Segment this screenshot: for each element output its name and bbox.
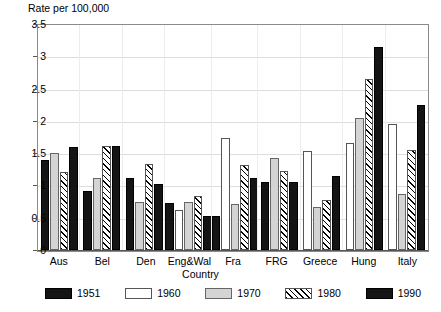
legend-item[interactable]: 1970 xyxy=(205,287,260,299)
y-axis-tick-label: 2 xyxy=(0,116,46,126)
legend-swatch xyxy=(285,288,312,299)
x-axis-tick-label: Aus xyxy=(37,255,81,267)
y-axis-tick-mark xyxy=(33,24,37,25)
legend-label: 1951 xyxy=(77,287,100,299)
y-axis-tick-mark xyxy=(33,218,37,219)
bar xyxy=(313,207,322,250)
bar xyxy=(165,203,174,250)
bar xyxy=(126,178,135,250)
bar xyxy=(221,138,230,250)
y-axis-tick-mark xyxy=(33,185,37,186)
legend-swatch xyxy=(205,288,232,299)
x-axis-title-text: Country xyxy=(182,268,219,280)
x-axis-tick-label: Greece xyxy=(298,255,342,267)
bar xyxy=(102,146,111,250)
bar xyxy=(332,176,341,250)
legend-swatch xyxy=(125,288,152,299)
y-axis-tick-label: 3.5 xyxy=(0,19,46,29)
x-axis-tick-label: Den xyxy=(124,255,168,267)
y-axis-tick-mark xyxy=(33,56,37,57)
y-axis-tick-label: 3 xyxy=(0,51,46,61)
y-axis-tick-mark xyxy=(33,250,37,251)
legend-item[interactable]: 1960 xyxy=(125,287,180,299)
legend-item[interactable]: 1990 xyxy=(366,287,421,299)
bar xyxy=(154,184,163,250)
bar xyxy=(365,79,374,250)
bar xyxy=(407,150,416,250)
y-axis-tick-label: 2.5 xyxy=(0,84,46,94)
y-axis-tick-mark xyxy=(33,153,37,154)
legend-label: 1960 xyxy=(157,287,180,299)
y-axis-tick-mark xyxy=(33,121,37,122)
bar xyxy=(280,171,289,250)
y-axis-title: Rate per 100,000 xyxy=(28,2,109,14)
bar xyxy=(231,204,240,250)
bar xyxy=(175,210,184,250)
chart-legend: 19511960197019801990 xyxy=(37,287,429,299)
bar xyxy=(270,158,279,250)
bar-group xyxy=(80,25,122,250)
bar-group xyxy=(386,25,428,250)
bar xyxy=(417,105,426,250)
bar-group xyxy=(212,25,259,250)
bar xyxy=(60,172,69,250)
bar-group xyxy=(165,25,212,250)
bar xyxy=(303,151,312,250)
x-axis-labels: AusBelDenEng&WalFraFRGGreeceHungItaly xyxy=(37,255,429,267)
bar xyxy=(112,146,121,250)
x-axis-tick-label: Fra xyxy=(211,255,255,267)
bar xyxy=(374,47,383,250)
legend-item[interactable]: 1951 xyxy=(45,287,100,299)
bar xyxy=(261,182,270,250)
bar-chart: Rate per 100,000 3.532.521.510.50 AusBel… xyxy=(0,0,441,312)
bar-group xyxy=(343,25,385,250)
x-axis-title: Country xyxy=(0,268,441,280)
plot-area xyxy=(37,24,429,252)
legend-label: 1970 xyxy=(237,287,260,299)
y-axis-tick-label: 0 xyxy=(0,245,46,255)
bar-group xyxy=(301,25,343,250)
bar xyxy=(194,196,203,250)
y-axis-tick-label: 0.5 xyxy=(0,213,46,223)
legend-swatch xyxy=(366,288,393,299)
bar xyxy=(212,216,221,250)
bar xyxy=(145,164,154,250)
x-axis-tick-label: Hung xyxy=(342,255,386,267)
bar xyxy=(41,160,50,250)
y-axis-tick-label: 1.5 xyxy=(0,148,46,158)
legend-item[interactable]: 1980 xyxy=(285,287,340,299)
legend-label: 1990 xyxy=(398,287,421,299)
bar xyxy=(50,153,59,250)
y-axis-tick-mark xyxy=(33,89,37,90)
x-axis-tick-label: Eng&Wal xyxy=(168,255,212,267)
bar xyxy=(240,165,249,250)
bar xyxy=(184,202,193,250)
bar xyxy=(388,124,397,250)
bar xyxy=(355,118,364,250)
bar xyxy=(346,143,355,250)
bar xyxy=(69,147,78,250)
y-axis-tick-label: 1 xyxy=(0,180,46,190)
legend-swatch xyxy=(45,288,72,299)
legend-label: 1980 xyxy=(317,287,340,299)
bar xyxy=(93,178,102,250)
bar xyxy=(135,202,144,250)
x-axis-tick-label: Italy xyxy=(386,255,430,267)
x-axis-line xyxy=(38,250,428,251)
x-axis-tick-label: FRG xyxy=(255,255,299,267)
bar-group xyxy=(123,25,165,250)
bar xyxy=(83,191,92,250)
bar-groups xyxy=(38,25,428,250)
bar xyxy=(289,182,298,250)
x-axis-tick-label: Bel xyxy=(81,255,125,267)
bar-group xyxy=(258,25,300,250)
bar xyxy=(398,194,407,250)
bar xyxy=(322,200,331,250)
